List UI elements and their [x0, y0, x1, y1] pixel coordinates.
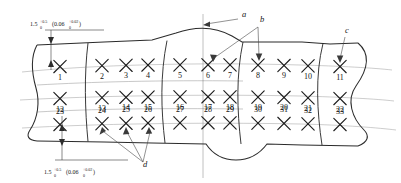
- callout-label-d: d: [143, 159, 148, 169]
- dim-alt-open: (0.06: [52, 21, 65, 28]
- dim-alt-upper: +0.02: [83, 167, 92, 172]
- x-cross-mark[interactable]: [174, 59, 186, 71]
- inspection-marks-layer: [54, 59, 346, 131]
- dim-alt-upper: +0.02: [69, 19, 78, 24]
- leader-d-arrowhead-1: [100, 127, 107, 135]
- outline-bottom-edge: [37, 141, 358, 160]
- x-cross-mark[interactable]: [202, 91, 214, 103]
- outline-top-edge: [37, 28, 358, 45]
- dim-upper-tol: +0.5: [40, 19, 47, 24]
- dim-alt-close: ): [93, 169, 95, 176]
- x-cross-mark[interactable]: [252, 91, 264, 103]
- divider-2: [162, 41, 167, 143]
- x-cross-mark[interactable]: [96, 59, 108, 71]
- leader-d-arrowhead-3: [146, 127, 153, 134]
- leader-a: [206, 19, 238, 24]
- x-cross-mark[interactable]: [224, 91, 236, 103]
- mark-number: 27: [176, 105, 184, 114]
- divider-4: [318, 44, 323, 146]
- divider-1: [85, 43, 88, 142]
- x-cross-mark[interactable]: [334, 92, 346, 104]
- dim-alt-lower: 0: [69, 25, 71, 30]
- mark-number: 33: [336, 107, 344, 116]
- divider-3: [238, 42, 243, 144]
- dim-alt-lower: 0: [83, 173, 85, 178]
- leader-b-arrowhead-2: [256, 54, 263, 62]
- dim-top-arrow-down: [48, 37, 54, 44]
- x-cross-mark[interactable]: [252, 59, 264, 71]
- leader-d-branch-1: [104, 132, 143, 162]
- x-cross-mark[interactable]: [120, 91, 132, 103]
- dim-lower-tol: 0: [54, 173, 56, 178]
- x-cross-mark[interactable]: [302, 60, 314, 72]
- leader-d-branch-3: [143, 132, 150, 162]
- dim-alt-open: (0.06: [66, 169, 79, 176]
- dim-nominal: 1.5: [44, 169, 52, 175]
- dim-top-arrow-up: [48, 60, 54, 67]
- mark-number: 32: [304, 106, 312, 115]
- dim-lower-tol: 0: [40, 25, 42, 30]
- x-cross-mark[interactable]: [302, 92, 314, 104]
- mark-number: 8: [256, 71, 260, 80]
- x-cross-mark[interactable]: [334, 118, 346, 130]
- dim-upper-tol: +0.5: [54, 167, 61, 172]
- mark-number: 23: [56, 107, 64, 116]
- mark-number: 6: [206, 71, 210, 80]
- mark-number: 3: [124, 71, 128, 80]
- x-cross-mark[interactable]: [142, 91, 154, 103]
- dim-top: 1.5+0.50(0.06+0.020): [30, 19, 81, 30]
- callout-label-c: c: [345, 25, 349, 35]
- dimension-top: [45, 30, 104, 70]
- x-cross-mark[interactable]: [174, 91, 186, 103]
- x-cross-mark[interactable]: [224, 59, 236, 71]
- x-cross-mark[interactable]: [224, 117, 236, 129]
- dim-bottom: 1.5+0.50(0.06+0.020): [44, 167, 95, 178]
- mark-number: 28: [204, 105, 212, 114]
- callout-label-b: b: [260, 14, 264, 24]
- mark-number: 11: [336, 73, 344, 82]
- mark-number: 26: [144, 105, 152, 114]
- mark-number: 9: [282, 71, 286, 80]
- x-cross-mark[interactable]: [142, 117, 154, 129]
- leader-d-arrowhead-2: [123, 127, 129, 135]
- mark-number: 25: [122, 105, 130, 114]
- band-line-lower: [37, 109, 243, 112]
- dim-nominal: 1.5: [30, 21, 38, 27]
- x-cross-mark[interactable]: [54, 92, 66, 104]
- band-line-upper: [37, 81, 243, 85]
- dim-bottom-arrow-down: [59, 139, 65, 146]
- outline-left-edge: [28, 45, 38, 141]
- leader-a-arrowhead: [203, 22, 210, 28]
- technical-drawing-svg: 1234567891011121314151617181920212223242…: [0, 0, 401, 183]
- mark-number: 2: [100, 72, 104, 81]
- x-cross-mark[interactable]: [278, 59, 290, 71]
- x-cross-mark[interactable]: [96, 91, 108, 103]
- mark-number: 10: [304, 72, 312, 81]
- drawing-canvas: 1234567891011121314151617181920212223242…: [0, 0, 401, 183]
- mark-number: 24: [98, 106, 106, 115]
- x-cross-mark[interactable]: [174, 117, 186, 129]
- dimension-bottom: [55, 116, 128, 160]
- x-cross-mark[interactable]: [202, 117, 214, 129]
- leader-d-branch-2: [127, 132, 143, 162]
- mark-number: 4: [146, 71, 150, 80]
- x-cross-mark[interactable]: [278, 91, 290, 103]
- mark-number: 29: [226, 105, 234, 114]
- mark-number: 5: [178, 71, 182, 80]
- band-lines: [37, 81, 243, 112]
- part-outline: [28, 28, 367, 160]
- outline-right-edge: [351, 43, 367, 146]
- mark-number: 30: [254, 105, 262, 114]
- mark-number: 31: [280, 105, 288, 114]
- mark-number: 7: [228, 71, 232, 80]
- dim-alt-close: ): [79, 21, 81, 28]
- mark-number: 1: [58, 73, 62, 82]
- x-cross-mark[interactable]: [202, 59, 214, 71]
- leader-c-arrowhead: [337, 56, 344, 64]
- callout-label-a: a: [242, 9, 246, 19]
- leader-b-arrowhead-1: [210, 55, 217, 63]
- x-cross-mark[interactable]: [54, 60, 66, 72]
